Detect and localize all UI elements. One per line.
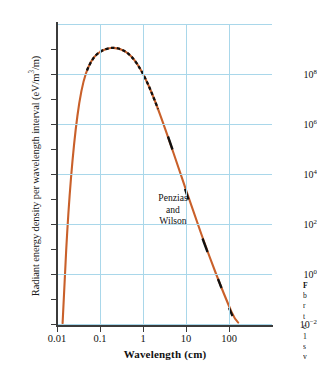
y-tick-10e8	[51, 74, 57, 75]
caption-line-4: t	[303, 312, 317, 322]
annotation-penzias-wilson: Penzias and Wilson	[146, 192, 200, 227]
x-tick-0.1	[100, 326, 101, 332]
y-axis-title: Radiant energy density per wavelength in…	[24, 26, 44, 326]
gridline-y-10e0	[57, 274, 272, 275]
x-axis-line	[56, 325, 273, 327]
data-segment-peak	[87, 48, 158, 109]
y-axis-title-exponent: 3	[28, 70, 36, 74]
x-axis-title: Wavelength (cm)	[55, 348, 275, 360]
annotation-line-2: and	[146, 204, 200, 216]
caption-line-2: b	[303, 291, 317, 301]
y-tick-label-10e4: 104	[271, 169, 317, 180]
x-tick-label-10: 10	[164, 333, 208, 344]
y-tick-minor-10e5	[51, 149, 57, 150]
gridline-y-10e8	[57, 74, 272, 75]
annotation-line-1: Penzias	[146, 192, 200, 204]
caption-line-7: s	[303, 342, 317, 352]
gridline-y-10e4	[57, 174, 272, 175]
x-tick-label-0.01: 0.01	[35, 333, 79, 344]
y-tick-minor-10e10	[51, 49, 57, 50]
gridline-x-1	[143, 24, 144, 325]
annotation-line-3: Wilson	[146, 215, 200, 227]
data-segment-3	[203, 239, 208, 253]
y-tick-label-10e0: 100	[271, 269, 317, 280]
x-tick-0.01	[57, 326, 58, 332]
caption-line-1: F	[303, 281, 317, 291]
y-axis-title-suffix: /m)	[29, 56, 40, 70]
y-axis-title-prefix: Radiant energy density per wavelength in…	[29, 74, 40, 297]
x-tick-label-0.1: 0.1	[78, 333, 122, 344]
figure-blackbody-spectrum: Radiant energy density per wavelength in…	[0, 0, 317, 372]
gridline-x-0.1	[100, 24, 101, 325]
plot-area	[57, 24, 272, 325]
gridline-y-10e10	[57, 24, 272, 25]
x-tick-100	[229, 326, 230, 332]
caption-line-3: r	[303, 301, 317, 311]
caption-line-6: 1	[303, 332, 317, 342]
x-tick-10	[186, 326, 187, 332]
data-segment-1	[168, 137, 173, 150]
x-tick-label-1: 1	[121, 333, 165, 344]
y-tick-label-10e2: 102	[271, 219, 317, 230]
measured-data-overlay	[87, 48, 233, 316]
y-tick-minor-10e3	[51, 199, 57, 200]
x-tick-1	[143, 326, 144, 332]
y-tick-10e0	[51, 274, 57, 275]
y-tick-10e4	[51, 174, 57, 175]
x-tick-label-100: 100	[207, 333, 251, 344]
gridline-y-10e6	[57, 124, 272, 125]
y-tick-minor-10e-1	[51, 299, 57, 300]
y-tick-minor-10e7	[51, 99, 57, 100]
gridline-x-100	[229, 24, 230, 325]
data-segment-4	[218, 279, 222, 288]
gridline-x-10	[186, 24, 187, 325]
y-tick-label-10e8: 108	[271, 69, 317, 80]
caption-line-8: v	[303, 352, 317, 362]
caption-line-5: c	[303, 322, 317, 332]
figure-caption-clipped: F b r t c 1 s v	[303, 281, 317, 363]
y-tick-label-10e6: 106	[271, 119, 317, 130]
y-tick-10e6	[51, 124, 57, 125]
y-tick-10e2	[51, 224, 57, 225]
y-tick-minor-10e1	[51, 249, 57, 250]
